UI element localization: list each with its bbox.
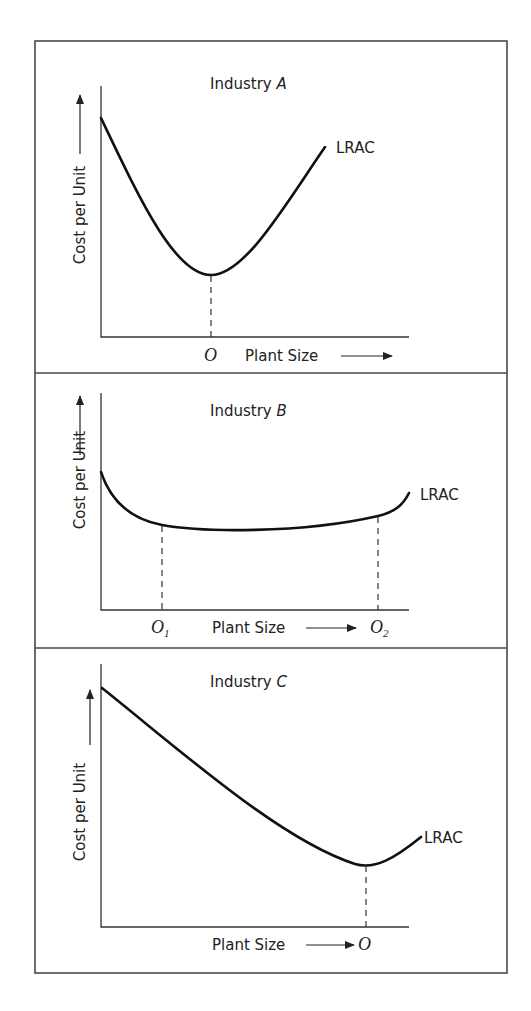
panel-industry-a: Industry ALRACOPlant SizeCost per Unit [71, 75, 409, 365]
lrac-curve [101, 118, 325, 275]
lrac-curve [101, 472, 409, 530]
optimum-label: O1 [151, 617, 170, 639]
panel-title: Industry B [210, 402, 287, 420]
optimum-label: O [204, 345, 217, 365]
x-axis-label: Plant Size [212, 619, 285, 637]
lrac-curve [102, 688, 421, 866]
optimum-label: O [358, 934, 371, 954]
panel-title: Industry C [210, 673, 287, 691]
panel-title: Industry A [210, 75, 287, 93]
axes [101, 393, 409, 610]
panel-industry-b: Industry BLRACO1O2Plant SizeCost per Uni… [71, 393, 459, 639]
y-axis-label: Cost per Unit [71, 166, 89, 264]
x-axis-label: Plant Size [245, 347, 318, 365]
y-axis-label: Cost per Unit [71, 763, 89, 861]
lrac-comparison-figure: Industry ALRACOPlant SizeCost per UnitIn… [0, 0, 531, 1011]
axes [101, 664, 409, 927]
lrac-label: LRAC [420, 486, 459, 504]
lrac-label: LRAC [424, 829, 463, 847]
x-axis-label: Plant Size [212, 936, 285, 954]
panel-industry-c: Industry CLRACOPlant SizeCost per Unit [71, 664, 463, 954]
optimum-label: O2 [370, 617, 389, 639]
lrac-label: LRAC [336, 139, 375, 157]
panels: Industry ALRACOPlant SizeCost per UnitIn… [71, 75, 463, 954]
